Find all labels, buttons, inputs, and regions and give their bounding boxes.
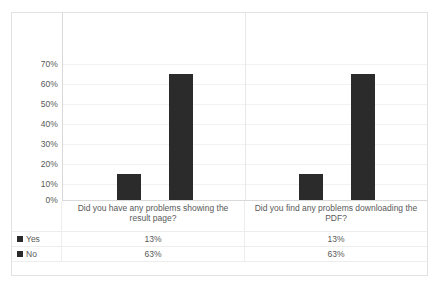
table-cell-yes-0: 13% [62,232,244,246]
legend-item-yes[interactable]: Yes [12,232,62,246]
bar-group [63,13,245,200]
legend-swatch-icon [17,251,23,257]
category-label-1: Did you find any problems downloading th… [244,201,427,231]
bar-yes[interactable] [117,174,141,200]
y-tick-label: 70% [18,60,58,69]
y-tick-label: 10% [18,180,58,189]
table-cell-no-1: 63% [244,247,427,261]
category-label-0: Did you have any problems showing the re… [62,201,244,231]
bar-no[interactable] [169,74,193,200]
chart-frame: 70% 60% 50% 40% 30% 20% 10% 0% [11,12,428,276]
legend-label-yes: Yes [26,235,40,244]
table-row-yes: Yes 13% 13% [12,232,427,247]
y-tick-label: 20% [18,160,58,169]
table-cell-no-0: 63% [62,247,244,261]
y-tick-label: 40% [18,120,58,129]
legend-cell-empty [12,201,62,231]
y-axis: 70% 60% 50% 40% 30% 20% 10% 0% [16,13,58,201]
bar-no[interactable] [351,74,375,200]
plot-region: 70% 60% 50% 40% 30% 20% 10% 0% [12,13,427,201]
table-row-categories: Did you have any problems showing the re… [12,201,427,232]
bar-group [245,13,427,200]
legend-label-no: No [26,250,37,259]
y-tick-label: 50% [18,100,58,109]
legend-item-no[interactable]: No [12,247,62,261]
legend-swatch-icon [17,236,23,242]
plot-area [62,13,427,201]
table-cell-yes-1: 13% [244,232,427,246]
y-tick-label: 30% [18,140,58,149]
table-row-no: No 63% 63% [12,247,427,262]
y-tick-label: 60% [18,80,58,89]
data-table: Did you have any problems showing the re… [12,201,427,275]
bar-yes[interactable] [299,174,323,200]
